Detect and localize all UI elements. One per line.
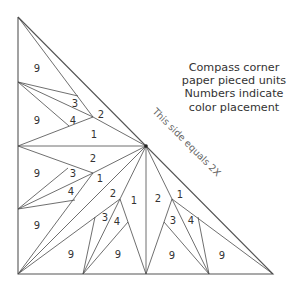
piece-number: 3 [72, 98, 78, 109]
compass-corner-diagram: This side equals 2X 99342129314921349921… [0, 0, 290, 290]
piece-number: 9 [115, 249, 121, 260]
piece-number: 4 [70, 115, 76, 126]
piece-number: 4 [188, 215, 194, 226]
piece-number: 1 [91, 129, 97, 140]
piece-number: 2 [155, 193, 161, 204]
caption: Compass corner paper pieced units Number… [178, 61, 290, 114]
piece-number: 2 [98, 109, 104, 120]
piece-number: 1 [97, 173, 103, 184]
piece-number: 9 [34, 168, 40, 179]
caption-line-4: color placement [178, 101, 290, 114]
piece-number: 1 [131, 195, 137, 206]
piece-number: 9 [169, 250, 175, 261]
piece-number: 9 [34, 220, 40, 231]
seam-diagonal [18, 146, 146, 274]
piece-number: 4 [114, 216, 120, 227]
center-point [144, 144, 148, 148]
piece-number: 9 [34, 115, 40, 126]
piece-number: 2 [90, 153, 96, 164]
piece-number: 9 [68, 249, 74, 260]
caption-line-3: Numbers indicate [178, 87, 290, 100]
piece-number: 3 [70, 168, 76, 179]
caption-line-2: paper pieced units [178, 74, 290, 87]
piece-number: 9 [219, 250, 225, 261]
piece-number: 3 [170, 215, 176, 226]
piece-number: 2 [110, 188, 116, 199]
piece-number: 9 [34, 63, 40, 74]
hypotenuse-label: This side equals 2X [150, 105, 224, 179]
piece-number: 1 [177, 189, 183, 200]
piece-number: 3 [102, 212, 108, 223]
piece-number: 4 [68, 186, 74, 197]
caption-line-1: Compass corner [178, 61, 290, 74]
